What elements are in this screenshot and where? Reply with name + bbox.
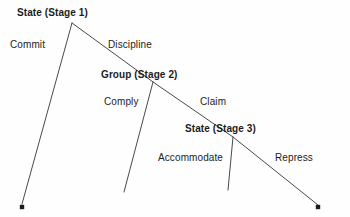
node-label-stage3: State (Stage 3): [185, 124, 256, 134]
edge-label-repress: Repress: [275, 153, 313, 163]
edge-label-commit: Commit: [10, 40, 45, 50]
terminal-dot-right: [316, 205, 320, 209]
edge-label-claim: Claim: [200, 97, 226, 107]
edge-label-accommodate: Accommodate: [158, 153, 223, 163]
terminal-dot-left: [20, 205, 24, 209]
tree-graphic: [0, 0, 350, 217]
diagram-canvas: State (Stage 1) Group (Stage 2) State (S…: [0, 0, 350, 217]
edge-line-commit: [22, 23, 72, 204]
node-label-stage2: Group (Stage 2): [101, 70, 178, 80]
edge-line-accommodate: [228, 137, 233, 190]
edge-line-repress: [233, 137, 318, 205]
node-label-stage1: State (Stage 1): [17, 8, 88, 18]
edge-label-comply: Comply: [104, 97, 139, 107]
edge-label-discipline: Discipline: [108, 40, 152, 50]
